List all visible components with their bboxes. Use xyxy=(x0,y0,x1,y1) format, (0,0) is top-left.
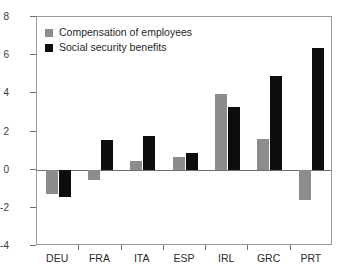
bar xyxy=(299,170,311,201)
legend-item-social-security-benefits: Social security benefits xyxy=(45,41,192,54)
x-tick-mark xyxy=(78,245,79,250)
x-tick-label: GRC xyxy=(257,252,280,264)
bar xyxy=(130,161,142,170)
bar xyxy=(143,136,155,169)
plot-frame: Compensation of employees Social securit… xyxy=(36,16,332,245)
bar xyxy=(186,153,198,169)
bar xyxy=(173,157,185,169)
zero-baseline xyxy=(37,170,331,171)
x-tick-label: DEU xyxy=(46,252,68,264)
bar xyxy=(88,170,100,180)
bar xyxy=(101,140,113,170)
x-tick-label: ITA xyxy=(134,252,150,264)
bar-chart: -4-202468 Compensation of employees Soci… xyxy=(0,0,350,271)
bar xyxy=(59,170,71,198)
bar xyxy=(215,94,227,169)
legend-swatch-compensation-of-employees xyxy=(45,29,53,37)
bar xyxy=(46,170,58,194)
legend-item-compensation-of-employees: Compensation of employees xyxy=(45,26,192,39)
bar xyxy=(312,48,324,169)
y-tick-label: -4 xyxy=(0,240,9,251)
x-tick-label: FRA xyxy=(89,252,110,264)
y-tick-label: 0 xyxy=(0,163,9,174)
y-tick-label: 8 xyxy=(0,11,9,22)
y-tick-label: 2 xyxy=(0,125,9,136)
x-tick-mark xyxy=(290,245,291,250)
legend-label-social-security-benefits: Social security benefits xyxy=(59,42,166,53)
bar xyxy=(270,76,282,170)
x-tick-label: IRL xyxy=(218,252,234,264)
y-tick-label: 4 xyxy=(0,87,9,98)
chart-legend: Compensation of employees Social securit… xyxy=(45,26,192,56)
legend-label-compensation-of-employees: Compensation of employees xyxy=(59,27,192,38)
x-tick-mark xyxy=(163,245,164,250)
x-tick-mark xyxy=(205,245,206,250)
y-tick-label: 6 xyxy=(0,49,9,60)
bar xyxy=(228,107,240,170)
x-tick-mark xyxy=(247,245,248,250)
legend-swatch-social-security-benefits xyxy=(45,44,53,52)
x-tick-label: ESP xyxy=(173,252,194,264)
y-tick-mark xyxy=(30,245,36,246)
bar xyxy=(257,139,269,170)
x-tick-mark xyxy=(121,245,122,250)
y-tick-label: -2 xyxy=(0,201,9,212)
x-tick-label: PRT xyxy=(300,252,321,264)
